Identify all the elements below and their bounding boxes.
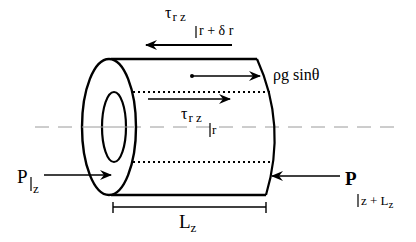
body-force-group: ρg sinθ (190, 66, 319, 84)
length-label: Lz (179, 211, 197, 235)
shear-outer-eval: r + δ r (199, 23, 234, 38)
pressure-in-symbol: P (17, 166, 28, 187)
pressure-out-symbol: P (345, 168, 357, 189)
body-force-label: ρg sinθ (273, 66, 319, 84)
shear-inner-group: τr z r (148, 99, 230, 137)
shear-outer-group: τr z r + δ r (146, 4, 234, 45)
length-dimension: Lz (113, 202, 266, 235)
shear-outer-label: τr z (165, 4, 186, 24)
shear-inner-label: τr z (181, 105, 202, 125)
shear-inner-eval: r (212, 122, 217, 137)
annular-shell-diagram: τr z r + δ r ρg sinθ τr z r P z P z + Lz (0, 0, 416, 242)
pressure-out-eval: z + Lz (361, 193, 394, 210)
pressure-in-eval: z (33, 181, 39, 196)
pressure-out-group: P z + Lz (272, 168, 394, 210)
